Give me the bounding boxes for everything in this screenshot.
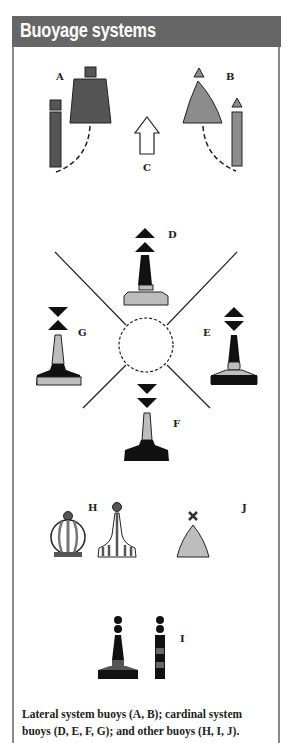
buoy-f-south-cardinal [124,384,169,461]
buoy-e-east-cardinal [211,307,257,385]
buoy-b-cone [183,68,222,123]
label-a: A [55,71,64,82]
label-i: I [180,633,185,644]
buoy-d-north-cardinal [124,228,168,305]
buoy-g-west-cardinal [36,307,81,385]
figure-caption: Lateral system buoys (A, B); cardinal sy… [22,706,282,740]
buoy-h-pillar [98,503,136,558]
buoy-b-spar [232,98,242,166]
buoy-j-special [177,512,209,557]
label-h: H [88,502,97,513]
caption-line-1: Lateral system buoys (A, B); cardinal sy… [22,706,282,723]
label-d: D [168,229,177,240]
buoy-a-can [70,67,111,123]
buoy-h-spherical [51,512,85,558]
arrow-up-icon [135,117,159,154]
buoy-i-isolated-danger-spar [155,616,165,679]
label-c: C [143,162,151,173]
label-j: J [241,502,247,513]
caption-line-2: buoys (D, E, F, G); and other buoys (H, … [22,723,282,740]
buoy-i-isolated-danger-pillar [98,616,138,679]
label-e: E [203,327,211,338]
cardinal-center-circle [119,318,173,372]
label-b: B [226,71,234,82]
label-f: F [173,418,180,429]
buoy-a-spar [50,100,61,167]
buoyage-diagram: A B C D G [0,0,292,743]
buoy-b-channel-line [203,126,236,171]
label-g: G [78,327,87,338]
